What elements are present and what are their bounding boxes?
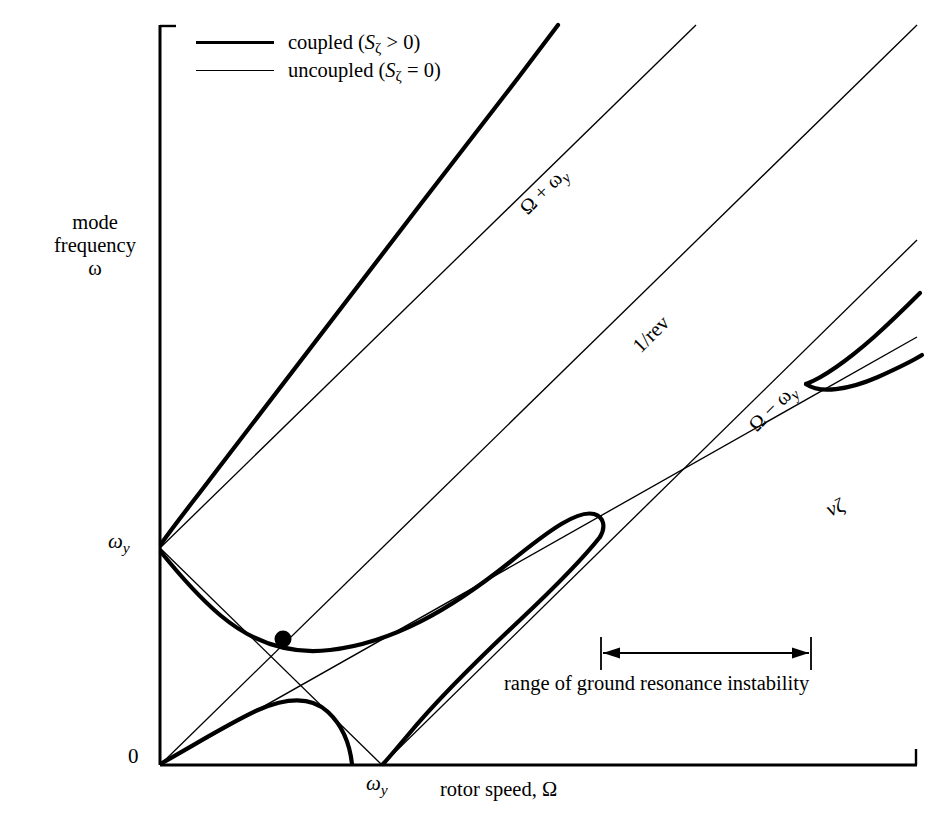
x-tick-label-omega-y: ωy	[366, 772, 388, 796]
line-omega-plus-omegay	[160, 25, 696, 548]
instability-range-caption: range of ground resonance instability	[504, 672, 809, 695]
curve-regressive-lens-lower	[383, 537, 600, 764]
crossing-marker-dot	[275, 631, 292, 648]
legend-line-thick-icon	[196, 41, 274, 44]
legend-line-thin-icon	[196, 70, 274, 71]
y-tick-label-omega-y: ωy	[108, 530, 130, 554]
legend-label-uncoupled: uncoupled (Sζ = 0)	[288, 59, 441, 82]
y-axis-title-symbol: ω	[42, 257, 148, 280]
legend-label-coupled: coupled (Sζ > 0)	[288, 31, 420, 54]
curve-upper-right-lens-upper	[806, 355, 922, 390]
y-axis-title-line1: mode	[42, 211, 148, 234]
mode-frequency-diagram	[0, 0, 944, 828]
figure-root: coupled (Sζ > 0) uncoupled (Sζ = 0) mode…	[0, 0, 944, 828]
curve-low-frequency-arch	[162, 700, 352, 764]
legend-entry-uncoupled: uncoupled (Sζ = 0)	[196, 56, 441, 84]
y-tick-label-zero: 0	[128, 745, 139, 769]
range-arrowhead-left	[603, 648, 620, 659]
legend-entry-coupled: coupled (Sζ > 0)	[196, 28, 441, 56]
y-axis-title-line2: frequency	[42, 234, 148, 257]
instability-range-marker	[601, 637, 811, 670]
curve-regressive-lens-upper	[161, 513, 603, 651]
range-arrowhead-right	[792, 648, 809, 659]
legend: coupled (Sζ > 0) uncoupled (Sζ = 0)	[196, 28, 441, 84]
line-nu-zeta	[160, 337, 917, 765]
curve-upper-right-lens-lower	[806, 293, 920, 384]
x-axis-title: rotor speed, Ω	[440, 778, 557, 801]
y-axis-title: mode frequency ω	[42, 211, 148, 280]
curve-upper-progressive	[161, 25, 558, 544]
